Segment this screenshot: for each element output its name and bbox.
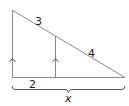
label-hypotenuse-lower: 4 [88, 47, 95, 60]
label-base-total: x [64, 92, 72, 105]
hypotenuse [12, 10, 125, 78]
label-base-left: 2 [29, 78, 36, 91]
label-hypotenuse-upper: 3 [35, 15, 42, 28]
similar-triangles-diagram: 3 4 2 x [0, 0, 129, 106]
